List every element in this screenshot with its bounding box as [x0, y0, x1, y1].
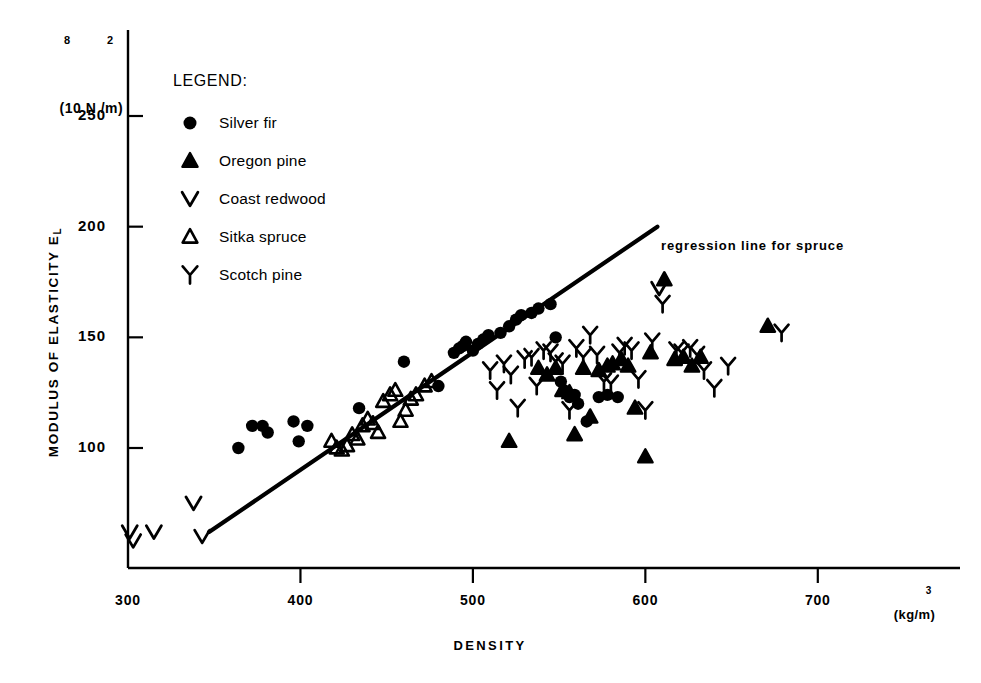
data-point	[612, 391, 624, 403]
data-point	[388, 383, 402, 396]
x-unit-exponent-3: 3	[926, 585, 932, 596]
legend-item-label: Silver fir	[219, 114, 277, 132]
data-point	[515, 309, 527, 321]
data-point	[775, 325, 789, 341]
data-point	[186, 497, 201, 510]
data-point	[656, 296, 670, 312]
plot-canvas	[0, 0, 981, 683]
x-tick-label: 300	[103, 592, 153, 608]
y-tick-label: 150	[60, 327, 106, 344]
y-unit-close: )	[118, 100, 123, 116]
legend: LEGEND: Silver firOregon pineCoast redwo…	[173, 72, 326, 294]
series-oregon-pine	[502, 272, 775, 462]
series-silver-fir	[232, 298, 624, 454]
legend-item-coast-redwood: Coast redwood	[173, 180, 326, 218]
data-point	[567, 427, 581, 440]
data-point	[353, 402, 365, 414]
filled-triangle-icon	[173, 148, 207, 174]
data-point	[511, 400, 525, 416]
y-axis-title: MODULUS OF ELASTICITY EL	[31, 194, 78, 514]
scatter-plot-figure: 8 2 (10 N /m) MODULUS OF ELASTICITY EL D…	[0, 0, 981, 683]
data-points	[122, 272, 788, 547]
data-point	[707, 380, 721, 396]
data-point	[576, 349, 590, 365]
legend-item-label: Oregon pine	[219, 152, 307, 170]
data-point	[293, 435, 305, 447]
data-point	[502, 434, 516, 447]
x-axis-unit-label: (kg/m3)	[878, 592, 935, 637]
data-point	[721, 358, 735, 374]
series-coast-redwood	[122, 282, 666, 547]
y-axis-ticks	[128, 116, 143, 448]
data-point	[232, 442, 244, 454]
data-point	[301, 420, 313, 432]
data-point	[371, 425, 385, 438]
data-point	[530, 378, 544, 394]
legend-item-sitka-spruce: Sitka spruce	[173, 218, 326, 256]
data-point	[287, 415, 299, 427]
data-point	[643, 345, 657, 358]
filled-circle-icon	[173, 110, 207, 136]
data-point	[504, 367, 518, 383]
data-point	[544, 345, 558, 361]
open-triangle-icon	[173, 224, 207, 250]
data-point	[146, 526, 161, 539]
y-axis-title-main: MODULUS OF ELASTICITY E	[46, 235, 61, 458]
data-point	[490, 382, 504, 398]
data-point	[497, 356, 511, 372]
x-tick-label: 600	[620, 592, 670, 608]
data-point	[563, 402, 577, 418]
legend-item-label: Scotch pine	[219, 266, 302, 284]
x-axis-title: DENSITY	[380, 638, 600, 653]
data-point	[261, 426, 273, 438]
data-point	[645, 334, 659, 350]
legend-item-oregon-pine: Oregon pine	[173, 142, 326, 180]
y-tick-label: 250	[60, 106, 106, 123]
data-point	[122, 526, 137, 539]
legend-item-label: Sitka spruce	[219, 228, 307, 246]
x-unit-close: )	[931, 607, 936, 622]
legend-item-silver-fir: Silver fir	[173, 104, 326, 142]
x-tick-label: 700	[793, 592, 843, 608]
data-point	[657, 272, 671, 285]
x-tick-label: 400	[275, 592, 325, 608]
data-point	[398, 355, 410, 367]
data-point	[544, 298, 556, 310]
legend-item-label: Coast redwood	[219, 190, 326, 208]
x-tick-label: 500	[448, 592, 498, 608]
x-unit-open: (kg/m	[894, 607, 931, 622]
y-unit-exponent-8: 8	[64, 34, 71, 46]
y-tick-label: 100	[60, 438, 106, 455]
data-point	[631, 371, 645, 387]
data-point	[583, 327, 597, 343]
x-axis-ticks	[300, 568, 817, 583]
data-point	[195, 530, 210, 543]
data-point	[625, 342, 639, 358]
legend-title: LEGEND:	[173, 72, 326, 90]
y-tick-label: 200	[60, 217, 106, 234]
data-point	[532, 302, 544, 314]
data-point	[638, 449, 652, 462]
data-point	[482, 329, 494, 341]
data-point	[483, 362, 497, 378]
y-glyph-icon	[173, 262, 207, 288]
data-point	[590, 347, 604, 363]
y-unit-exponent-2: 2	[107, 34, 114, 46]
regression-line-annotation: regression line for spruce	[661, 238, 844, 253]
legend-item-scotch-pine: Scotch pine	[173, 256, 326, 294]
v-glyph-icon	[173, 186, 207, 212]
data-point	[761, 319, 775, 332]
